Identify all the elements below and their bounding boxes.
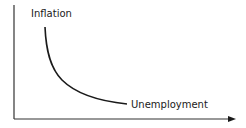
unemployment-label: Unemployment [131,99,208,111]
phillips-curve-line [45,27,127,104]
inflation-label: Inflation [31,8,72,20]
phillips-curve-diagram: Inflation Unemployment [0,0,246,128]
x-axis-arrowhead-icon [228,116,236,122]
